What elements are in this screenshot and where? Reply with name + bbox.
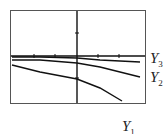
label-y2: Y2: [150, 70, 163, 88]
graph-plot: [0, 0, 168, 134]
label-y3: Y3: [150, 51, 163, 69]
label-y1: Y1: [122, 119, 135, 134]
